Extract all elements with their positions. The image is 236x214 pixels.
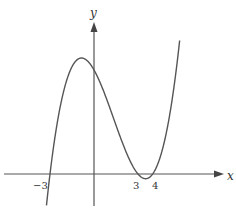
tick-label-4: 4 — [152, 180, 158, 191]
cubic-graph: y x −3 3 4 — [0, 0, 236, 214]
y-axis-label: y — [89, 6, 97, 20]
y-axis-arrow-icon — [91, 22, 98, 32]
tick-label-3: 3 — [133, 180, 139, 191]
x-axis-label: x — [227, 169, 234, 183]
cubic-curve — [46, 41, 179, 206]
x-axis-arrow-icon — [214, 171, 224, 178]
tick-label-neg3: −3 — [33, 180, 48, 191]
